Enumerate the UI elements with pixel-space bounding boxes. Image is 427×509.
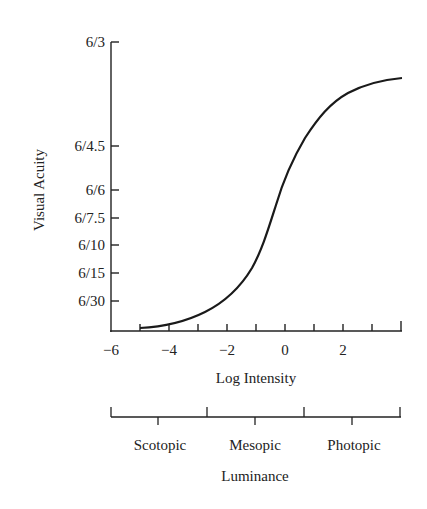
y-tick-label: 6/30 [78, 293, 105, 309]
x-axis-label: Log Intensity [216, 370, 297, 386]
y-tick-label: 6/7.5 [75, 210, 105, 226]
x-tick-label: −6 [103, 342, 119, 358]
acuity-curve [140, 78, 402, 328]
y-tick-label: 6/15 [78, 265, 105, 281]
acuity-chart: 6/3 6/4.5 6/6 6/7.5 6/10 6/15 6/30 Visua… [0, 0, 427, 509]
y-tick-label: 6/4.5 [75, 138, 105, 154]
region-photopic: Photopic [327, 437, 381, 453]
axes [110, 42, 402, 332]
luminance-region-labels: Scotopic Mesopic Photopic [134, 437, 381, 453]
y-tick-labels: 6/3 6/4.5 6/6 6/7.5 6/10 6/15 6/30 [75, 34, 106, 309]
y-tick-label: 6/10 [78, 237, 105, 253]
region-mesopic: Mesopic [229, 437, 281, 453]
x-tick-label: −4 [161, 342, 177, 358]
x-tick-label: −2 [219, 342, 235, 358]
x-tick-label: 2 [339, 342, 347, 358]
y-tick-label: 6/6 [86, 182, 106, 198]
x-tick-labels: −6 −4 −2 0 2 [103, 342, 347, 358]
region-scotopic: Scotopic [134, 437, 187, 453]
y-axis-label: Visual Acuity [31, 148, 47, 231]
x-tick-label: 0 [281, 342, 289, 358]
luminance-label: Luminance [221, 468, 289, 484]
luminance-scale [111, 407, 401, 425]
y-tick-label: 6/3 [86, 34, 105, 50]
